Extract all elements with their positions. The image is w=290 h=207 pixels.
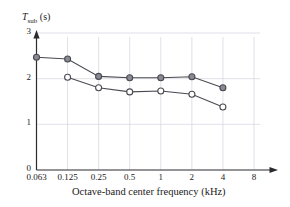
data-point-series-open	[127, 89, 133, 95]
data-point-series-open	[65, 74, 71, 80]
y-tick-label: 3	[17, 26, 31, 36]
data-point-series-open	[96, 85, 102, 91]
data-point-series-filled	[189, 74, 195, 80]
data-point-series-filled	[34, 54, 40, 60]
gridlines	[37, 33, 261, 170]
data-point-series-filled	[220, 85, 226, 91]
data-point-series-filled	[96, 73, 102, 79]
y-tick-label: 0	[17, 163, 31, 173]
y-axis-units: (s)	[40, 11, 51, 22]
series-line-series-open	[68, 77, 223, 107]
y-axis-subscript: sub	[28, 17, 38, 25]
data-point-series-filled	[127, 75, 133, 81]
y-tick-label: 1	[17, 117, 31, 127]
data-point-series-filled	[65, 56, 71, 62]
y-axis-arrow	[33, 30, 39, 39]
x-axis-title: Octave-band center frequency (kHz)	[72, 186, 226, 197]
data-point-series-open	[189, 91, 195, 97]
data-point-series-open	[220, 104, 226, 110]
axes	[33, 30, 278, 173]
x-tick-label: 8	[234, 172, 274, 182]
y-axis-title: Tsub (s)	[22, 11, 50, 25]
y-tick-label: 2	[17, 72, 31, 82]
data-point-series-filled	[158, 75, 164, 81]
chart-figure: Tsub (s) Octave-band center frequency (k…	[0, 0, 290, 207]
data-point-series-open	[158, 88, 164, 94]
